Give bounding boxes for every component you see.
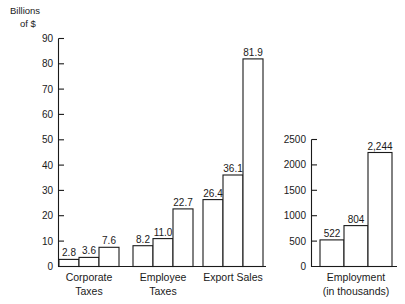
grouped-bar-chart-svg: Billions of $ 90 80 70 60 <box>0 0 405 304</box>
bar-export-3 <box>243 59 263 267</box>
bar-label-export-3: 81.9 <box>243 47 263 58</box>
left-ytick-label-80: 80 <box>42 58 54 69</box>
left-y-tick-labels: 90 80 70 60 50 40 30 20 10 0 <box>42 33 54 272</box>
bar-label-employee-2: 11.0 <box>154 227 173 238</box>
bar-label-employment-2: 804 <box>348 214 365 225</box>
bar-corporate-2 <box>79 257 99 266</box>
right-ytick-label-2500: 2500 <box>284 134 307 145</box>
right-ytick-label-1500: 1500 <box>284 185 307 196</box>
left-ytick-label-20: 20 <box>42 210 54 221</box>
bar-corporate-1 <box>59 259 79 266</box>
group-label-employment-line1: Employment <box>327 271 385 283</box>
bar-corporate-3 <box>99 247 119 266</box>
bar-label-employee-3: 22.7 <box>173 197 193 208</box>
right-ytick-label-500: 500 <box>289 236 306 247</box>
left-axis-title-line2: of $ <box>20 18 37 29</box>
left-y-ticks <box>59 39 65 242</box>
bar-group-employee-taxes: 8.2 11.0 22.7 Employee Taxes <box>133 197 193 297</box>
chart-container: Billions of $ 90 80 70 60 <box>0 0 405 304</box>
bar-employee-3 <box>173 209 193 267</box>
bar-employment-1 <box>320 240 344 267</box>
bar-label-corporate-2: 3.6 <box>82 245 96 256</box>
bar-label-export-1: 26.4 <box>203 188 223 199</box>
left-ytick-label-10: 10 <box>42 236 54 247</box>
left-ytick-label-40: 40 <box>42 160 54 171</box>
bar-group-employment: 522 804 2,244 Employment (in thousands) <box>320 141 393 298</box>
bar-group-export-sales: 26.4 36.1 81.9 Export Sales <box>203 47 263 283</box>
bar-employment-2 <box>344 226 368 267</box>
left-ytick-label-0: 0 <box>47 261 53 272</box>
bar-employment-3 <box>368 153 392 267</box>
left-axis-title-line1: Billions <box>10 5 40 16</box>
group-label-employee-line1: Employee <box>140 271 187 283</box>
right-y-tick-labels: 2500 2000 1500 1000 500 0 <box>284 134 307 272</box>
left-ytick-label-90: 90 <box>42 33 54 44</box>
group-label-export-line1: Export Sales <box>203 271 263 283</box>
bar-label-employment-3: 2,244 <box>367 141 392 152</box>
right-ytick-label-0: 0 <box>300 261 306 272</box>
left-ytick-label-50: 50 <box>42 134 54 145</box>
group-label-corporate-line1: Corporate <box>66 271 113 283</box>
group-label-employment-line2: (in thousands) <box>323 285 390 297</box>
bar-label-corporate-1: 2.8 <box>62 247 76 258</box>
left-ytick-label-70: 70 <box>42 84 54 95</box>
bar-employee-2 <box>153 239 173 267</box>
left-ytick-label-60: 60 <box>42 109 54 120</box>
right-y-ticks <box>312 140 318 242</box>
group-label-employee-line2: Taxes <box>149 285 176 297</box>
left-panel: Billions of $ 90 80 70 60 <box>10 5 266 297</box>
bar-label-export-2: 36.1 <box>223 163 243 174</box>
bar-export-2 <box>223 175 243 267</box>
left-ytick-label-30: 30 <box>42 185 54 196</box>
right-ytick-label-1000: 1000 <box>284 210 307 221</box>
bar-label-employment-1: 522 <box>324 228 341 239</box>
group-label-corporate-line2: Taxes <box>75 285 102 297</box>
bar-label-employee-1: 8.2 <box>136 234 150 245</box>
bar-employee-1 <box>133 246 153 267</box>
bar-group-corporate-taxes: 2.8 3.6 7.6 Corporate Taxes <box>59 235 119 297</box>
bar-label-corporate-3: 7.6 <box>102 235 116 246</box>
right-panel: 2500 2000 1500 1000 500 0 522 804 2,244 … <box>284 134 397 297</box>
right-ytick-label-2000: 2000 <box>284 159 307 170</box>
bar-export-1 <box>203 200 223 267</box>
